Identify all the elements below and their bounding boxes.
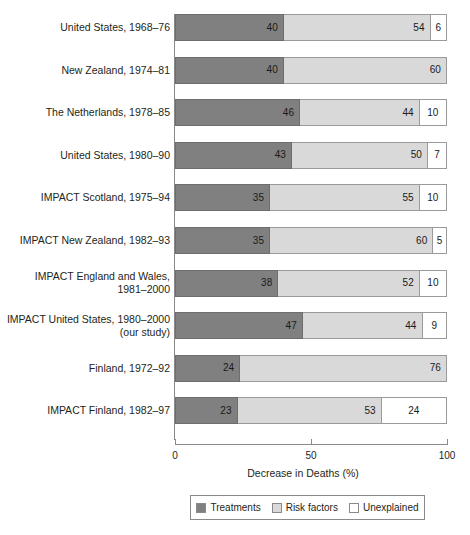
bar-segment-value: 10 — [427, 278, 438, 288]
stacked-bar-chart: United States, 1968–76New Zealand, 1974–… — [0, 0, 470, 535]
y-axis-label: IMPACT United States, 1980–2000 (our stu… — [0, 313, 170, 339]
y-axis-label: Finland, 1972–92 — [0, 362, 170, 375]
y-axis-label: The Netherlands, 1978–85 — [0, 106, 170, 119]
bar-segment-unexplained: 6 — [431, 14, 447, 41]
bar-segment-value: 40 — [266, 65, 282, 75]
bar-row: 2476 — [175, 355, 447, 382]
bar-segment-value: 10 — [427, 108, 438, 118]
bar-segment-value: 54 — [413, 23, 429, 33]
bar-segment-value: 46 — [283, 108, 299, 118]
plot-area: 4054640604644104350735551035605385210474… — [175, 14, 447, 440]
chart-legend: Treatments Risk factors Unexplained — [190, 495, 425, 520]
x-axis-tick — [311, 439, 312, 445]
bar-segment-unexplained: 10 — [420, 99, 447, 126]
bar-row: 4060 — [175, 57, 447, 84]
bar-segment-value: 60 — [416, 236, 432, 246]
bar-row: 355510 — [175, 184, 447, 211]
y-axis-label: New Zealand, 1974–81 — [0, 64, 170, 77]
legend-item-risk-factors: Risk factors — [272, 502, 338, 513]
legend-label-treatments: Treatments — [210, 502, 260, 513]
bar-segment-treatments: 35 — [175, 184, 270, 211]
y-axis-label: IMPACT Scotland, 1975–94 — [0, 191, 170, 204]
y-axis-label: United States, 1968–76 — [0, 21, 170, 34]
bar-row: 47449 — [175, 312, 447, 339]
y-axis-label: IMPACT New Zealand, 1982–93 — [0, 234, 170, 247]
bar-row: 40546 — [175, 14, 447, 41]
y-axis-label: IMPACT Finland, 1982–97 — [0, 404, 170, 417]
legend-item-treatments: Treatments — [196, 502, 260, 513]
bar-segment-risk-factors: 76 — [240, 355, 447, 382]
bar-segment-value: 50 — [411, 150, 427, 160]
bar-segment-value: 40 — [266, 23, 282, 33]
bar-segment-value: 76 — [430, 363, 446, 373]
bar-segment-risk-factors: 50 — [292, 142, 428, 169]
x-axis-tick — [175, 439, 176, 445]
bar-segment-treatments: 46 — [175, 99, 300, 126]
bar-segment-value: 24 — [408, 406, 419, 416]
bar-row: 235324 — [175, 397, 447, 424]
y-axis-label: IMPACT England and Wales, 1981–2000 — [0, 270, 170, 296]
x-axis-tick — [447, 439, 448, 445]
y-axis-label: United States, 1980–90 — [0, 149, 170, 162]
legend-swatch-risk-factors-icon — [272, 503, 282, 513]
bar-segment-risk-factors: 55 — [270, 184, 420, 211]
legend-label-unexplained: Unexplained — [363, 502, 419, 513]
bar-segment-risk-factors: 53 — [238, 397, 382, 424]
bar-segment-value: 52 — [402, 278, 418, 288]
bar-segment-value: 5 — [437, 236, 443, 246]
bar-segment-value: 47 — [286, 321, 302, 331]
bar-segment-value: 55 — [402, 193, 418, 203]
bar-segment-value: 43 — [275, 150, 291, 160]
legend-item-unexplained: Unexplained — [349, 502, 419, 513]
bar-segment-value: 24 — [223, 363, 239, 373]
bar-segment-unexplained: 10 — [420, 184, 447, 211]
bar-segment-value: 10 — [427, 193, 438, 203]
bar-segment-treatments: 47 — [175, 312, 303, 339]
bar-segment-value: 44 — [405, 321, 421, 331]
bar-segment-treatments: 38 — [175, 270, 278, 297]
bar-segment-treatments: 35 — [175, 227, 270, 254]
bar-segment-value: 53 — [364, 406, 380, 416]
x-axis-tick-label: 100 — [439, 450, 456, 461]
bar-segment-unexplained: 7 — [428, 142, 447, 169]
legend-swatch-treatments-icon — [196, 503, 206, 513]
bar-segment-value: 35 — [253, 193, 269, 203]
x-axis-tick-label: 50 — [305, 450, 316, 461]
bar-segment-treatments: 43 — [175, 142, 292, 169]
x-axis-title: Decrease in Deaths (%) — [0, 467, 470, 479]
bar-segment-risk-factors: 44 — [303, 312, 423, 339]
bar-row: 35605 — [175, 227, 447, 254]
bar-segment-unexplained: 24 — [382, 397, 447, 424]
bar-segment-treatments: 40 — [175, 14, 284, 41]
bar-segment-unexplained: 5 — [433, 227, 447, 254]
bar-segment-value: 35 — [253, 236, 269, 246]
legend-label-risk-factors: Risk factors — [286, 502, 338, 513]
x-axis-tick-label: 0 — [172, 450, 178, 461]
bar-segment-value: 38 — [261, 278, 277, 288]
bar-segment-risk-factors: 60 — [284, 57, 447, 84]
bar-segment-risk-factors: 52 — [278, 270, 419, 297]
bar-segment-treatments: 23 — [175, 397, 238, 424]
bar-segment-value: 23 — [220, 406, 236, 416]
bar-segment-risk-factors: 60 — [270, 227, 433, 254]
bar-row: 385210 — [175, 270, 447, 297]
bar-segment-unexplained: 9 — [423, 312, 447, 339]
bar-row: 464410 — [175, 99, 447, 126]
bar-segment-value: 60 — [430, 65, 446, 75]
bar-segment-risk-factors: 54 — [284, 14, 431, 41]
bar-row: 43507 — [175, 142, 447, 169]
bar-segment-value: 44 — [402, 108, 418, 118]
bar-segment-treatments: 24 — [175, 355, 240, 382]
bar-segment-value: 7 — [434, 150, 440, 160]
legend-swatch-unexplained-icon — [349, 503, 359, 513]
bar-segment-value: 6 — [435, 23, 441, 33]
bar-segment-risk-factors: 44 — [300, 99, 420, 126]
bar-segment-value: 9 — [431, 321, 437, 331]
bar-segment-treatments: 40 — [175, 57, 284, 84]
x-axis-title-text: Decrease in Deaths (%) — [247, 467, 358, 479]
bar-segment-unexplained: 10 — [420, 270, 447, 297]
